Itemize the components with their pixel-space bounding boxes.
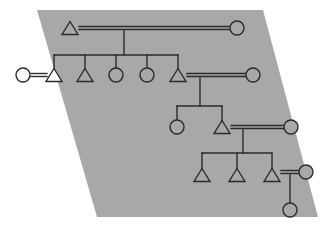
female-symbol <box>230 21 244 35</box>
female-symbol <box>170 120 184 134</box>
female-symbol <box>16 68 30 82</box>
female-symbol <box>246 68 260 82</box>
kinship-canvas <box>0 0 323 227</box>
female-symbol <box>284 120 298 134</box>
female-symbol <box>299 165 313 179</box>
female-symbol <box>283 203 297 217</box>
female-symbol <box>140 68 154 82</box>
female-symbol <box>109 68 123 82</box>
kinship-diagram <box>0 0 323 227</box>
